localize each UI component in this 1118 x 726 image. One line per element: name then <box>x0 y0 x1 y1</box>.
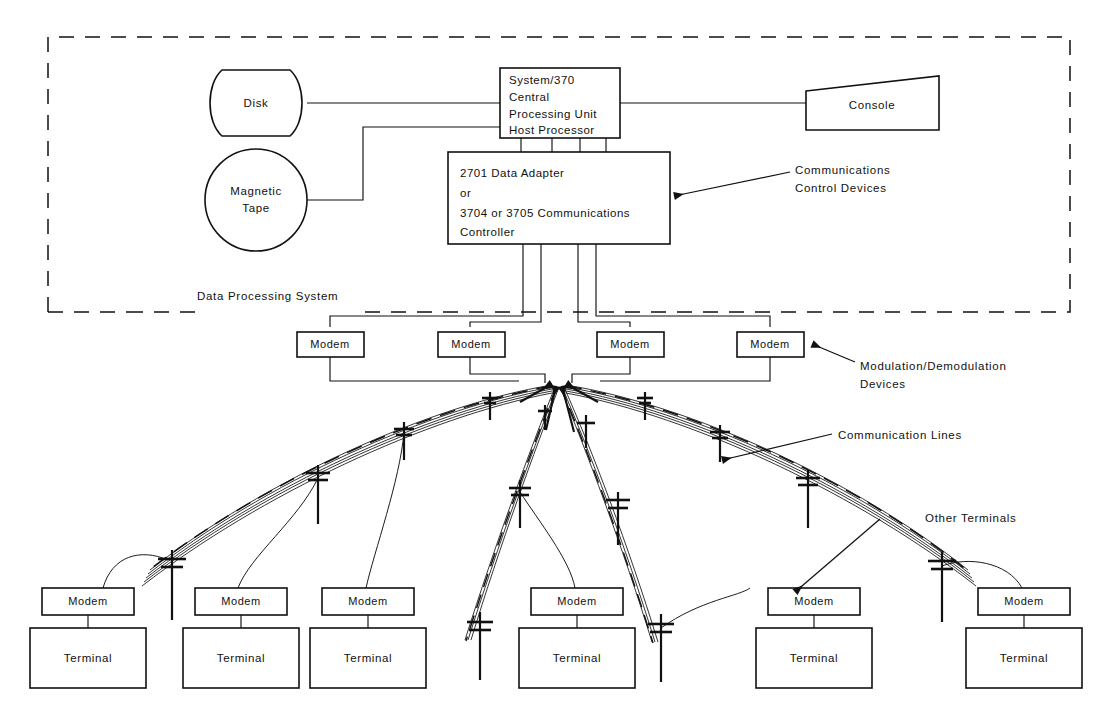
controller-label-line4: Controller <box>460 226 515 238</box>
station-modem-label: Modem <box>68 595 108 607</box>
magnetic-tape-label-line2: Tape <box>242 202 269 214</box>
annotation-modulation-line2: Devices <box>860 378 906 390</box>
cpu-label-line3: Processing Unit <box>509 108 597 120</box>
cpu-label-line2: Central <box>509 91 550 103</box>
station-modem-label: Modem <box>794 595 834 607</box>
annotation-control-devices-line2: Control Devices <box>795 182 887 194</box>
cpu-label-line4: Host Processor <box>509 124 595 136</box>
magnetic-tape-label-line1: Magnetic <box>230 185 281 197</box>
upper-modem-label: Modem <box>750 338 790 350</box>
annotation-control-devices-line1: Communications <box>795 164 890 176</box>
upper-modem-label: Modem <box>451 338 491 350</box>
station-terminal-label: Terminal <box>344 652 392 664</box>
annotation-other-terminals: Other Terminals <box>925 512 1016 524</box>
station-terminal-label: Terminal <box>1000 652 1048 664</box>
station-modem-label: Modem <box>221 595 261 607</box>
upper-modem-label: Modem <box>310 338 350 350</box>
diagram-canvas: Disk Magnetic Tape System/370 Central Pr… <box>0 0 1118 726</box>
station-terminal-label: Terminal <box>217 652 265 664</box>
boundary-label: Data Processing System <box>197 290 338 302</box>
controller-label-line2: or <box>460 187 471 199</box>
diagram-text-layer: Disk Magnetic Tape System/370 Central Pr… <box>0 0 1118 726</box>
station-modem-label: Modem <box>348 595 388 607</box>
annotation-communication-lines: Communication Lines <box>838 429 962 441</box>
station-modem-label: Modem <box>1004 595 1044 607</box>
upper-modem-label: Modem <box>610 338 650 350</box>
station-modem-label: Modem <box>557 595 597 607</box>
controller-label-line3: 3704 or 3705 Communications <box>460 207 630 219</box>
cpu-label-line1: System/370 <box>509 74 575 86</box>
controller-label-line1: 2701 Data Adapter <box>460 167 564 179</box>
station-terminal-label: Terminal <box>790 652 838 664</box>
station-terminal-label: Terminal <box>64 652 112 664</box>
station-terminal-label: Terminal <box>553 652 601 664</box>
disk-label: Disk <box>244 97 269 109</box>
annotation-modulation-line1: Modulation/Demodulation <box>860 360 1007 372</box>
console-label: Console <box>849 99 895 111</box>
